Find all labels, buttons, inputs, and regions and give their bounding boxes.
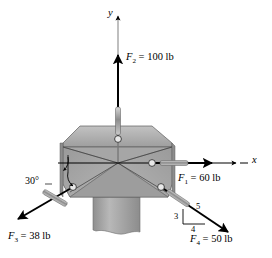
force-label-f2: F2 = 100 lb [126,52,174,65]
pin-f1 [149,160,156,167]
f2-value: = 100 lb [136,51,174,62]
slope-label-hypotenuse-5: 5 [196,202,200,211]
force-label-f4: F4 = 50 lb [190,234,232,247]
angle-label-30-degrees: 30° [25,176,39,186]
x-axis-label: x [252,155,257,166]
diagram-svg [0,0,272,258]
turnbuckle-f4 [166,189,190,208]
pin-f2 [115,136,122,143]
turnbuckle-f2 [116,107,121,135]
slope-label-vertical-3: 3 [174,212,178,221]
force-label-f3: F3 = 38 lb [8,231,50,244]
f1-value: = 60 lb [188,172,220,183]
figure-canvas: y x F2 = 100 lb F1 = 60 lb F3 = 38 lb F4… [0,0,272,258]
pin-f3 [70,184,77,191]
pin-f4 [158,184,165,191]
y-axis-label: y [108,8,113,19]
support-post [93,197,140,234]
force-vector-f2 [115,55,122,142]
force-label-f1: F1 = 60 lb [178,173,220,186]
f4-value: = 50 lb [200,233,232,244]
slope-triangle-345 [183,209,205,224]
f3-value: = 38 lb [18,230,50,241]
slope-label-horizontal-4: 4 [191,225,195,234]
turnbuckle-f1 [160,161,188,166]
